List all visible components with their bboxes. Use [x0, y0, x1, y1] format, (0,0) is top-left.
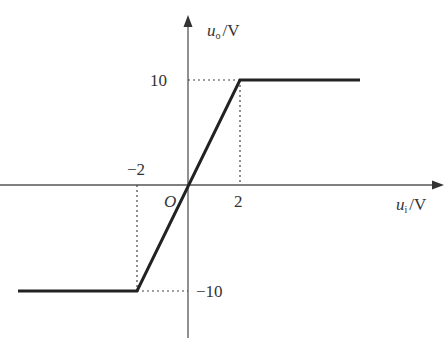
x-axis-arrow-icon	[432, 181, 444, 190]
y-axis-label: uo/V	[207, 21, 240, 41]
tick-y-10: 10	[150, 71, 167, 90]
tick-x-neg2: −2	[127, 160, 145, 179]
y-axis-label-sub: o	[216, 30, 221, 41]
tick-x-2: 2	[234, 192, 243, 211]
x-axis-label: ui/V	[396, 195, 427, 215]
origin-label: O	[164, 192, 176, 211]
x-axis-label-unit: /V	[409, 195, 427, 214]
y-axis-label-main: u	[207, 21, 216, 40]
x-axis-label-sub: i	[405, 204, 408, 215]
x-axis-label-main: u	[396, 195, 405, 214]
tick-y-neg10: −10	[196, 282, 223, 301]
y-axis-label-unit: /V	[223, 21, 241, 40]
y-axis-arrow-icon	[184, 15, 193, 27]
transfer-characteristic-chart: 10 −10 −2 2 O uo/V ui/V	[0, 0, 448, 341]
